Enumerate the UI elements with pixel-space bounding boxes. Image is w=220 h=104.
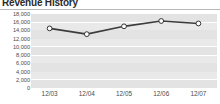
- revenue-history-chart-widget: Revenue History 02,0004,0006,0008,00010,…: [0, 0, 220, 104]
- revenue-line-series: [31, 14, 217, 88]
- y-axis-tick-label: 18,000: [1, 11, 30, 17]
- y-axis-tick-label: 8,000: [1, 52, 30, 58]
- x-axis-tick-label: 12/03: [35, 90, 65, 98]
- data-point-marker[interactable]: [47, 26, 52, 31]
- y-axis-tick-label: 0: [1, 85, 30, 91]
- y-axis: 02,0004,0006,0008,00010,00012,00014,0001…: [0, 14, 30, 88]
- data-point-marker[interactable]: [84, 32, 89, 37]
- x-axis: 12/0312/0412/0512/0612/07: [31, 90, 217, 102]
- y-axis-tick-label: 6,000: [1, 60, 30, 66]
- y-axis-tick-label: 14,000: [1, 27, 30, 33]
- y-axis-tick-label: 12,000: [1, 36, 30, 42]
- title-divider: [0, 9, 220, 10]
- x-axis-tick-label: 12/07: [183, 90, 213, 98]
- data-point-marker[interactable]: [159, 19, 164, 24]
- data-point-marker[interactable]: [196, 21, 201, 26]
- chart-title: Revenue History: [2, 0, 78, 8]
- y-axis-tick-label: 16,000: [1, 19, 30, 25]
- x-axis-tick-label: 12/04: [72, 90, 102, 98]
- data-point-marker[interactable]: [122, 24, 127, 29]
- y-axis-tick-label: 2,000: [1, 77, 30, 83]
- plot-area: [31, 14, 217, 88]
- y-axis-tick-label: 4,000: [1, 69, 30, 75]
- x-axis-tick-label: 12/06: [146, 90, 176, 98]
- y-axis-tick-label: 10,000: [1, 44, 30, 50]
- x-axis-tick-label: 12/05: [109, 90, 139, 98]
